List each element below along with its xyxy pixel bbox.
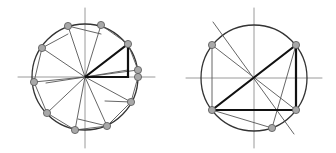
construction-line [272,45,296,128]
circle-point [208,106,215,113]
right-diagram-unit-circle [0,0,336,153]
circle-point [292,106,299,113]
circle-point [208,41,215,48]
circle-point [268,124,275,131]
diagram-canvas [0,0,336,153]
circle-point [292,41,299,48]
